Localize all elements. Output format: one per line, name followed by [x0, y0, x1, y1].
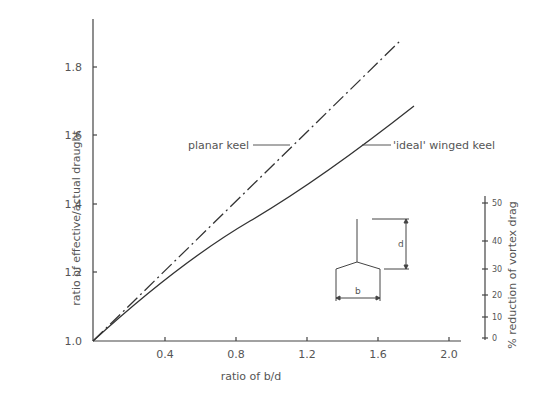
- x-tick-label: 0.4: [156, 348, 174, 361]
- y2-tick-label: 40: [492, 237, 502, 246]
- chart-figure: 0.4 0.8 1.2 1.6 2.0 1.0 1.2 1.4 1.6 1.8 …: [0, 0, 553, 401]
- y2-tick-label: 20: [492, 291, 502, 300]
- winged-keel-line: [93, 106, 414, 341]
- planar-keel-label: planar keel: [188, 139, 249, 152]
- x-tick-label: 0.8: [227, 348, 245, 361]
- y-axis-label: ratio of effective/actual draught: [70, 130, 83, 306]
- x-tick-label: 1.2: [298, 348, 316, 361]
- winged-keel-label: 'ideal' winged keel: [393, 139, 495, 152]
- y2-tick-label: 10: [492, 313, 502, 322]
- x-tick-label: 1.6: [369, 348, 387, 361]
- y2-tick-label: 0: [492, 334, 497, 343]
- x-tick-label: 2.0: [440, 348, 458, 361]
- y2-tick-label: 30: [492, 265, 502, 274]
- y2-axis-label: % reduction of vortex drag: [506, 201, 519, 349]
- chart-svg: 0.4 0.8 1.2 1.6 2.0 1.0 1.2 1.4 1.6 1.8 …: [0, 0, 553, 401]
- y-tick-label: 1.0: [65, 335, 83, 348]
- x-axis-label: ratio of b/d: [221, 370, 282, 383]
- keel-inset-diagram: [336, 219, 409, 301]
- y-tick-label: 1.8: [65, 61, 83, 74]
- inset-b-label: b: [355, 286, 361, 296]
- y2-tick-label: 50: [492, 199, 502, 208]
- inset-d-label: d: [398, 239, 404, 249]
